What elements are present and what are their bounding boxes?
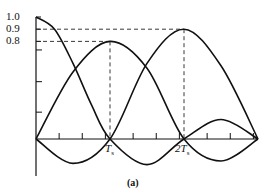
x-tick-label: Ts: [105, 143, 114, 157]
x-tick-label: 2Ts: [175, 143, 189, 157]
curves: [36, 17, 258, 165]
y-tick-label: 0.8: [6, 35, 20, 46]
y-tick-label: 0.9: [6, 23, 20, 34]
reference-lines: [36, 29, 184, 139]
figure-caption: (a): [127, 177, 139, 188]
series-curve-3: [36, 29, 258, 163]
y-tick-label: 1.0: [6, 11, 20, 22]
chart-canvas: [0, 0, 273, 193]
series-curve-2: [36, 41, 258, 161]
series-curve-1: [36, 17, 258, 165]
axes: [36, 17, 258, 176]
